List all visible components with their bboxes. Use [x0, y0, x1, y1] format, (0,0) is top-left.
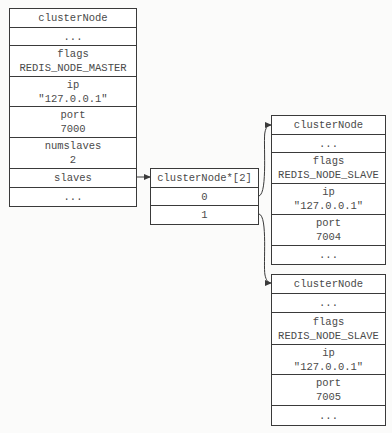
slaves-array-title: clusterNode*[2] [151, 169, 258, 188]
ellipsis-text: ... [319, 296, 338, 310]
slave-node-ellipsis-bottom: ... [272, 246, 385, 264]
field-value: "127.0.0.1" [38, 92, 107, 106]
field-label: flags [57, 47, 89, 61]
field-label: ip [322, 185, 335, 199]
slave-node-title: clusterNode [272, 116, 385, 135]
slave-node-flags-field: flags REDIS_NODE_SLAVE [272, 153, 385, 184]
field-label: port [316, 376, 341, 390]
slave-cluster-node-7005: clusterNode ... flags REDIS_NODE_SLAVE i… [271, 274, 386, 426]
field-value: REDIS_NODE_SLAVE [278, 329, 379, 343]
slave-node-title-text: clusterNode [294, 118, 363, 132]
slot-index: 0 [201, 190, 207, 204]
slaves-pointer-array: clusterNode*[2] 0 1 [150, 168, 259, 225]
field-label: ip [67, 78, 80, 92]
master-cluster-node: clusterNode ... flags REDIS_NODE_MASTER … [9, 8, 137, 207]
field-value: REDIS_NODE_MASTER [19, 61, 126, 75]
field-value: 7005 [316, 390, 341, 404]
field-value: "127.0.0.1" [294, 199, 363, 213]
ellipsis-text: ... [319, 409, 338, 423]
master-node-slaves-field: slaves [10, 169, 136, 188]
slave-node-ip-field: ip "127.0.0.1" [272, 184, 385, 215]
field-value: 7004 [316, 230, 341, 244]
master-node-numslaves-field: numslaves 2 [10, 138, 136, 169]
slave-node-flags-field: flags REDIS_NODE_SLAVE [272, 313, 385, 345]
slave-node-ellipsis-top: ... [272, 294, 385, 313]
slave-node-title-text: clusterNode [294, 277, 363, 291]
slot1-to-slave-7005-arrow [259, 214, 271, 283]
field-label: numslaves [45, 139, 102, 153]
field-value: 7000 [60, 122, 85, 136]
master-node-flags-field: flags REDIS_NODE_MASTER [10, 46, 136, 77]
slaves-array-slot-0: 0 [151, 188, 258, 206]
master-node-title: clusterNode [10, 9, 136, 28]
field-label: slaves [54, 171, 92, 185]
slave-cluster-node-7004: clusterNode ... flags REDIS_NODE_SLAVE i… [271, 115, 386, 265]
slave-node-title: clusterNode [272, 275, 385, 294]
ellipsis-text: ... [319, 248, 338, 262]
field-label: flags [313, 154, 345, 168]
slave-node-port-field: port 7005 [272, 375, 385, 406]
field-value: REDIS_NODE_SLAVE [278, 168, 379, 182]
field-value: 2 [70, 153, 76, 167]
field-label: flags [313, 315, 345, 329]
ellipsis-text: ... [319, 137, 338, 151]
ellipsis-text: ... [64, 190, 83, 204]
slave-node-ellipsis-top: ... [272, 135, 385, 153]
master-node-title-text: clusterNode [38, 11, 107, 25]
master-node-ip-field: ip "127.0.0.1" [10, 77, 136, 107]
master-node-ellipsis-top: ... [10, 28, 136, 46]
field-label: port [316, 216, 341, 230]
field-label: port [60, 108, 85, 122]
field-label: ip [322, 346, 335, 360]
slot0-to-slave-7004-arrow [259, 125, 271, 196]
master-node-port-field: port 7000 [10, 107, 136, 138]
slave-node-ip-field: ip "127.0.0.1" [272, 345, 385, 375]
field-value: "127.0.0.1" [294, 360, 363, 374]
slaves-array-slot-1: 1 [151, 206, 258, 224]
slot-index: 1 [201, 208, 207, 222]
ellipsis-text: ... [64, 30, 83, 44]
master-node-ellipsis-bottom: ... [10, 188, 136, 206]
slave-node-ellipsis-bottom: ... [272, 406, 385, 425]
slaves-array-title-text: clusterNode*[2] [157, 171, 252, 185]
slave-node-port-field: port 7004 [272, 215, 385, 246]
